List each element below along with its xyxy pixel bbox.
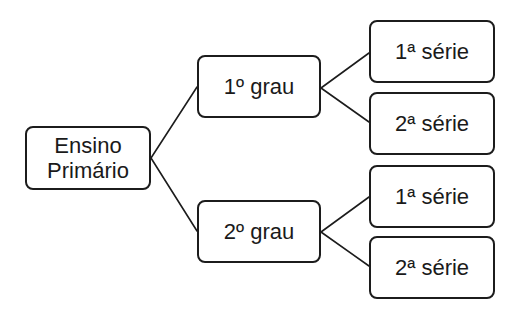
node-1-grau-2-serie: 2ª série [369, 92, 495, 155]
connector-grau2-to-serie1 [321, 197, 369, 232]
node-2-grau-1-serie: 1ª série [369, 165, 495, 228]
node-label: 2ª série [395, 111, 469, 136]
node-2-grau: 2º grau [197, 200, 321, 263]
node-1-grau-1-serie: 1ª série [369, 20, 495, 83]
node-1-grau: 1º grau [197, 55, 321, 118]
tree-diagram: Ensino Primário 1º grau 2º grau 1ª série… [0, 0, 516, 315]
connector-grau1-to-serie1 [321, 53, 369, 88]
node-label: 2º grau [224, 219, 294, 244]
connector-root-to-grau1 [151, 87, 197, 158]
node-ensino-primario: Ensino Primário [25, 126, 151, 190]
node-label: 1º grau [224, 74, 294, 99]
connector-root-to-grau2 [151, 158, 197, 231]
connector-grau2-to-serie2 [321, 232, 369, 266]
node-2-grau-2-serie: 2ª série [369, 236, 495, 299]
node-label: Ensino Primário [47, 133, 129, 183]
node-label: 1ª série [395, 39, 469, 64]
node-label: 2ª série [395, 255, 469, 280]
connector-grau1-to-serie2 [321, 88, 369, 122]
node-label: 1ª série [395, 184, 469, 209]
